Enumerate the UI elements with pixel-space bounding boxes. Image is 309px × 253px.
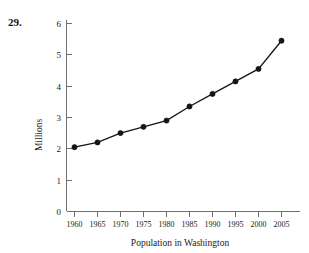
x-axis-tick-labels: 1960 1965 1970 1975 1980 1985 1990 1995 … xyxy=(67,220,290,229)
x-axis-ticks xyxy=(75,212,282,218)
y-tick-label: 3 xyxy=(57,113,62,123)
y-tick-label: 0 xyxy=(57,207,62,217)
x-tick-label: 2000 xyxy=(251,220,267,229)
series-markers xyxy=(72,38,284,150)
x-tick-label: 2005 xyxy=(274,220,290,229)
line-chart-plot: 6 5 4 3 2 1 0 Millions 1960 1965 1 xyxy=(0,0,309,253)
data-point xyxy=(233,79,238,84)
x-tick-label: 1960 xyxy=(67,220,83,229)
x-tick-label: 1970 xyxy=(113,220,129,229)
data-point xyxy=(72,145,77,150)
data-point xyxy=(164,118,169,123)
y-axis-tick-labels: 6 5 4 3 2 1 0 xyxy=(57,19,62,217)
data-point xyxy=(141,124,146,129)
data-point xyxy=(279,38,284,43)
x-tick-label: 1995 xyxy=(228,220,244,229)
data-point xyxy=(118,130,123,135)
x-tick-label: 1975 xyxy=(136,220,152,229)
y-axis-title: Millions xyxy=(34,119,44,152)
data-point xyxy=(256,66,261,71)
y-tick-label: 1 xyxy=(57,176,62,186)
data-point xyxy=(187,104,192,109)
data-point xyxy=(95,140,100,145)
y-tick-label: 5 xyxy=(57,50,62,60)
x-tick-label: 1980 xyxy=(159,220,175,229)
data-point xyxy=(210,91,215,96)
x-axis-title: Population in Washington xyxy=(131,238,230,248)
y-tick-label: 6 xyxy=(57,19,62,29)
chart-figure: 29. 6 5 4 3 2 1 0 Millions xyxy=(0,0,309,253)
x-tick-label: 1985 xyxy=(182,220,198,229)
y-tick-label: 4 xyxy=(57,82,62,92)
x-tick-label: 1965 xyxy=(90,220,106,229)
y-axis-ticks xyxy=(67,24,73,212)
series-line-population xyxy=(75,41,282,147)
y-tick-label: 2 xyxy=(57,144,62,154)
x-tick-label: 1990 xyxy=(205,220,221,229)
